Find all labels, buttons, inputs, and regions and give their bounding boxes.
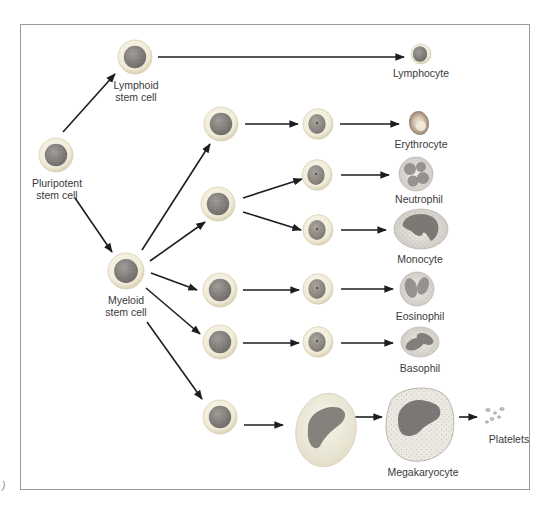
pluripotent-cell xyxy=(39,138,73,172)
platelets-cell xyxy=(486,408,505,424)
arrow-from-pluripotent xyxy=(75,198,112,252)
megakaryoblast-cell xyxy=(289,388,363,473)
monocyte-cell xyxy=(394,209,448,249)
p3-cell xyxy=(303,215,333,246)
arrow-from-m2 xyxy=(243,212,301,230)
arrow-from-pluripotent xyxy=(63,74,115,132)
erythrocyte-cell xyxy=(407,109,431,136)
arrow-from-m2 xyxy=(243,179,302,198)
platelets-label: Platelets xyxy=(489,433,529,445)
corner-mark: ) xyxy=(2,480,5,491)
m3-cell xyxy=(203,273,237,307)
neutrophil-label: Neutrophil xyxy=(395,193,443,205)
arrow-from-myeloid xyxy=(151,273,197,290)
neutrophil-cell xyxy=(399,157,433,191)
lymphocyte-cell xyxy=(411,44,431,64)
myeloid-cell xyxy=(108,253,144,289)
monocyte-label: Monocyte xyxy=(397,253,443,265)
basophil-label: Basophil xyxy=(400,362,440,374)
p1-cell xyxy=(303,109,333,140)
megakaryocyte-label: Megakaryocyte xyxy=(387,466,458,478)
arrow-from-myeloid xyxy=(146,288,200,334)
m2-cell xyxy=(201,187,235,221)
lymphoid-label: Lymphoid stem cell xyxy=(113,79,158,103)
eosinophil-cell xyxy=(400,272,434,306)
megakaryocyte-cell xyxy=(386,388,454,461)
arrow-from-myeloid xyxy=(142,144,210,250)
erythrocyte-label: Erythrocyte xyxy=(394,138,447,150)
p4-cell xyxy=(303,274,333,305)
p5-cell xyxy=(303,327,333,358)
diagram-canvas xyxy=(0,0,547,508)
myeloid-label: Myeloid stem cell xyxy=(105,294,146,318)
p2-cell xyxy=(302,160,332,191)
lymphoid-cell xyxy=(118,40,152,74)
m5-cell xyxy=(203,400,237,434)
basophil-cell xyxy=(401,327,439,357)
lymphocyte-label: Lymphocyte xyxy=(393,67,449,79)
hematopoiesis-diagram: Pluripotent stem cellLymphoid stem cellM… xyxy=(0,0,547,508)
pluripotent-label: Pluripotent stem cell xyxy=(32,177,82,201)
eosinophil-label: Eosinophil xyxy=(396,310,444,322)
arrow-from-myeloid xyxy=(150,222,205,261)
m4-cell xyxy=(203,325,237,359)
arrow-from-myeloid xyxy=(147,322,202,399)
m1-cell xyxy=(204,107,238,141)
